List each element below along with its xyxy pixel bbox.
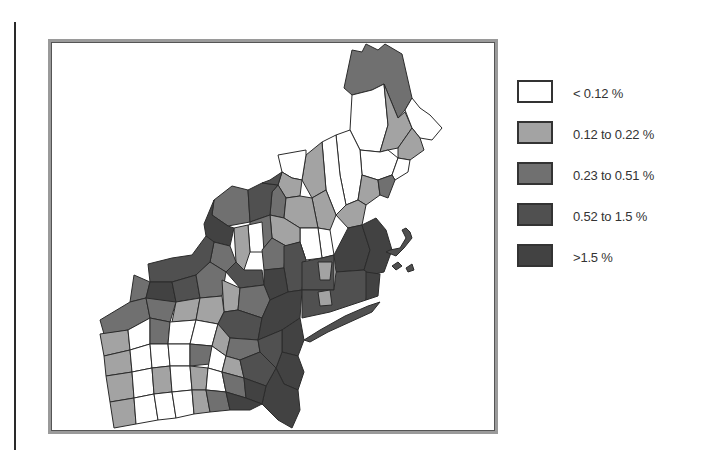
region-pa-c1 xyxy=(150,344,170,368)
region-pa-s1 xyxy=(152,366,172,394)
region-pa-sbw1 xyxy=(110,398,136,428)
region-pa-sb2 xyxy=(172,390,194,418)
legend-label: 0.52 to 1.5 % xyxy=(573,209,647,224)
region-pa-s3 xyxy=(190,366,208,390)
region-ct-inner xyxy=(318,290,332,306)
legend-label: 0.12 to 0.22 % xyxy=(573,127,654,142)
region-maine-south1 xyxy=(358,175,380,205)
legend-label: 0.23 to 0.51 % xyxy=(573,168,654,183)
legend-swatch-mid-gray xyxy=(517,162,553,185)
region-pa-c2 xyxy=(168,344,190,366)
region-ma-central2 xyxy=(318,262,332,280)
legend-swatch-darkest-gray xyxy=(517,244,553,267)
legend-swatch-white xyxy=(517,80,553,103)
choropleth-map xyxy=(0,0,715,456)
region-ma-islands xyxy=(392,262,414,272)
region-ri xyxy=(366,272,380,300)
region-pa-n2 xyxy=(150,318,170,344)
legend-swatch-dark-gray xyxy=(517,203,553,226)
region-pa-s2 xyxy=(170,366,192,392)
region-pa-sw1 xyxy=(106,372,134,402)
legend-swatch-light-gray xyxy=(517,121,553,144)
region-ny-adk2 xyxy=(248,222,264,252)
legend-label: >1.5 % xyxy=(573,250,613,265)
legend-label: < 0.12 % xyxy=(573,86,623,101)
region-ny-north3 xyxy=(262,172,282,185)
region-pa-sw2 xyxy=(132,368,154,398)
